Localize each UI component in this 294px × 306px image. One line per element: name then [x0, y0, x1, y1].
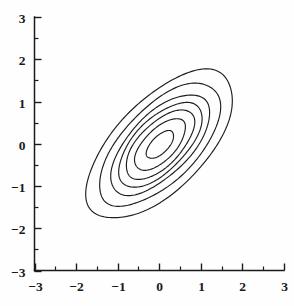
y-tick-label: −2 — [11, 222, 26, 237]
contour-1 — [146, 130, 173, 158]
y-tick-label: 2 — [19, 53, 26, 68]
y-tick-label: −1 — [11, 180, 26, 195]
axes: −3−2−10123 −3−2−10123 — [11, 11, 288, 294]
y-axis-tick-labels: −3−2−10123 — [11, 11, 26, 280]
x-axis-ticks — [36, 264, 285, 271]
x-tick-label: −3 — [28, 279, 43, 294]
contour-3 — [126, 110, 194, 179]
contour-plot-figure: −3−2−10123 −3−2−10123 — [0, 0, 294, 306]
x-tick-label: 1 — [198, 279, 205, 294]
x-tick-label: 2 — [239, 279, 246, 294]
y-tick-label: −3 — [11, 265, 26, 280]
y-tick-label: 3 — [19, 11, 26, 26]
contour-5 — [111, 95, 210, 195]
x-tick-label: 3 — [281, 279, 288, 294]
x-tick-label: −1 — [111, 279, 126, 294]
x-tick-label: −2 — [69, 279, 84, 294]
y-axis-ticks — [35, 18, 42, 272]
contour-6 — [100, 83, 221, 206]
contour-7 — [86, 69, 233, 218]
contour-lines — [86, 69, 233, 218]
contour-4 — [119, 102, 202, 187]
x-axis-tick-labels: −3−2−10123 — [28, 279, 288, 294]
y-tick-label: 1 — [19, 96, 26, 111]
y-tick-label: 0 — [19, 138, 26, 153]
plot-canvas: −3−2−10123 −3−2−10123 — [0, 0, 294, 306]
x-tick-label: 0 — [156, 279, 163, 294]
